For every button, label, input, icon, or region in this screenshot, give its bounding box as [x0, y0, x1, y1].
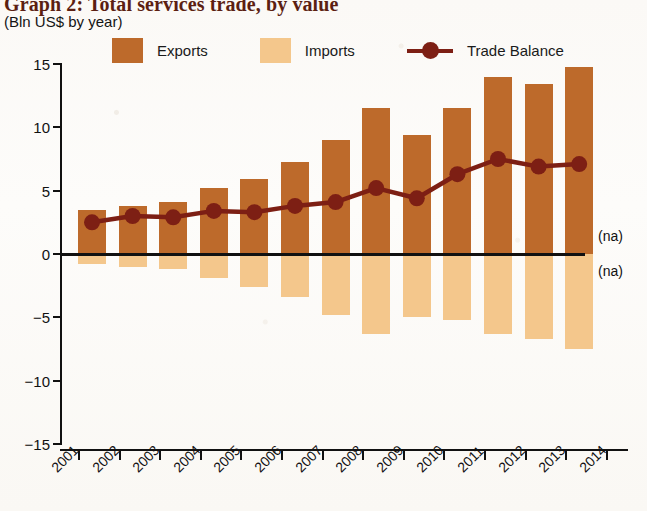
x-axis: 2001200220032004200520062007200820092010… — [60, 449, 630, 511]
legend-line-dot-icon — [407, 38, 453, 63]
x-tick-label: 2001 — [48, 442, 81, 475]
x-tick-label: 2013 — [535, 442, 568, 475]
x-tick-label: 2006 — [251, 442, 284, 475]
trade-balance-point — [328, 194, 344, 210]
trade-balance-point — [246, 204, 262, 220]
trade-balance-line-series — [60, 64, 585, 444]
trade-balance-point — [206, 203, 222, 219]
trade-balance-point — [368, 180, 384, 196]
x-tick-label: 2005 — [210, 442, 243, 475]
legend-item-exports: Exports — [112, 38, 208, 63]
na-imports-label: (na) — [598, 263, 623, 279]
x-tick-label: 2012 — [495, 442, 528, 475]
x-tick-label: 2004 — [170, 442, 203, 475]
trade-balance-point — [165, 209, 181, 225]
trade-balance-point — [571, 156, 587, 172]
legend-label-exports: Exports — [157, 42, 208, 59]
y-tick-label: −10 — [25, 372, 50, 389]
x-tick-label: 2002 — [89, 442, 122, 475]
legend-swatch-imports-icon — [260, 38, 291, 63]
trade-balance-point — [490, 151, 506, 167]
y-tick-label: 15 — [33, 56, 50, 73]
y-axis-labels: 151050−5−10−15 — [2, 64, 50, 444]
legend-swatch-exports-icon — [112, 38, 143, 63]
trade-balance-point — [287, 198, 303, 214]
legend-label-imports: Imports — [305, 42, 355, 59]
trade-balance-point — [531, 159, 547, 175]
x-tick-label: 2003 — [129, 442, 162, 475]
x-tick-label: 2007 — [292, 442, 325, 475]
trade-balance-point — [409, 190, 425, 206]
legend-item-imports: Imports — [260, 38, 355, 63]
trade-balance-point — [84, 214, 100, 230]
y-tick-label: 10 — [33, 119, 50, 136]
y-tick-label: −15 — [25, 436, 50, 453]
trade-balance-point — [125, 208, 141, 224]
chart-subtitle: (Bln US$ by year) — [4, 13, 122, 30]
trade-balance-point — [449, 166, 465, 182]
x-tick-label: 2009 — [373, 442, 406, 475]
x-tick-label: 2010 — [413, 442, 446, 475]
x-tick-label: 2011 — [454, 443, 487, 476]
plot-area: 151050−5−10−15 (na)(na) — [60, 64, 585, 444]
chart-legend: Exports Imports Trade Balance — [112, 38, 564, 63]
legend-label-trade-balance: Trade Balance — [467, 42, 564, 59]
legend-dot-marker — [422, 42, 439, 59]
y-tick-label: −5 — [33, 309, 50, 326]
y-tick-label: 0 — [42, 246, 50, 263]
na-exports-label: (na) — [598, 228, 623, 244]
x-tick-label: 2008 — [332, 442, 365, 475]
trade-balance-polyline — [92, 159, 579, 222]
y-tick-label: 5 — [42, 182, 50, 199]
x-tick-label: 2014 — [576, 442, 609, 475]
legend-item-trade-balance: Trade Balance — [407, 38, 564, 63]
